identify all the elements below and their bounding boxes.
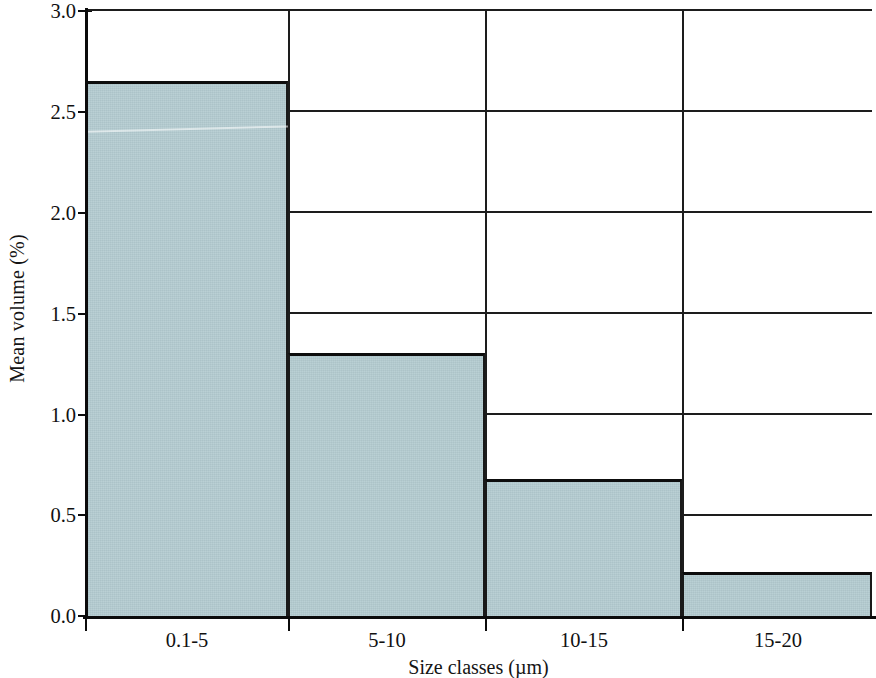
bar-0	[85, 81, 288, 616]
x-tick-mark-3	[682, 616, 684, 631]
x-tick-mark-2	[485, 616, 487, 631]
x-tick-mark-0	[85, 616, 87, 631]
bar-1	[288, 353, 485, 616]
y-tick-label-1: 0.5	[28, 505, 76, 526]
plot-area	[85, 10, 872, 616]
bar-3	[682, 572, 872, 616]
y-tick-label-5: 2.5	[28, 102, 76, 123]
x-tick-mark-1	[288, 616, 290, 631]
y-tick-label-3: 1.5	[28, 304, 76, 325]
y-tick-label-6: 3.0	[28, 1, 76, 22]
y-axis-tick-labels: 0.0 0.5 1.0 1.5 2.0 2.5 3.0	[20, 0, 76, 678]
x-axis-line	[83, 616, 876, 619]
gridline-3.0	[85, 9, 872, 11]
category-separator-3	[682, 10, 684, 616]
y-tick-label-4: 2.0	[28, 203, 76, 224]
y-axis-title-text: Mean volume (%)	[6, 234, 29, 383]
y-tick-label-2: 1.0	[28, 405, 76, 426]
bar-2	[485, 479, 682, 616]
y-axis-title: Mean volume (%)	[0, 0, 34, 616]
x-axis-title: Size classes (µm)	[85, 657, 872, 677]
y-tick-label-0: 0.0	[28, 606, 76, 627]
x-tick-label-1: 5-10	[368, 630, 406, 651]
x-tick-label-3: 15-20	[754, 630, 802, 651]
x-tick-label-0: 0.1-5	[166, 630, 209, 651]
y-axis-line	[85, 8, 88, 619]
histogram-figure: Mean volume (%) 0.0 0.5 1.0 1.5 2.0 2.5 …	[0, 0, 876, 678]
x-tick-label-2: 10-15	[560, 630, 608, 651]
